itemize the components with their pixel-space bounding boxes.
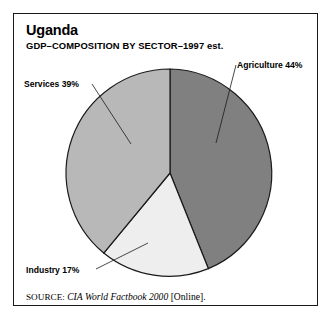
figure-panel: Uganda GDP–COMPOSITION BY SECTOR–1997 es…: [0, 0, 333, 322]
pie-label-industry: Industry 17%: [26, 265, 80, 275]
source-kicker: SOURCE:: [26, 292, 65, 302]
source-title: CIA World Factbook 2000: [67, 291, 168, 302]
source-note: SOURCE: CIA World Factbook 2000 [Online]…: [26, 291, 206, 302]
pie-label-agriculture: Agriculture 44%: [237, 60, 302, 70]
source-suffix: [Online].: [171, 291, 206, 302]
pie-label-services: Services 39%: [24, 79, 79, 89]
